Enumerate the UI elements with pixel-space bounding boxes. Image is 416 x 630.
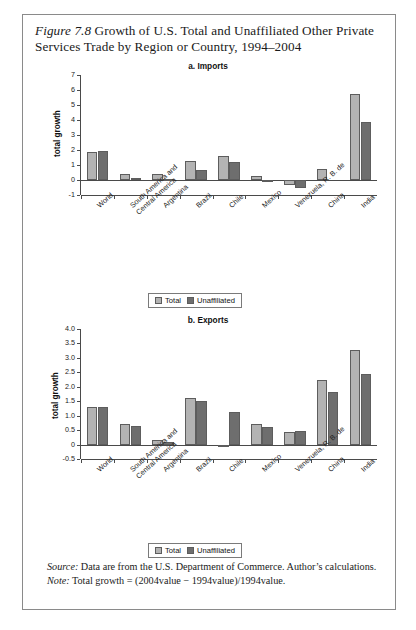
bar-total — [350, 350, 361, 444]
x-tick — [81, 460, 82, 463]
legend-item-unaffiliated: Unaffiliated — [187, 296, 235, 305]
y-tick — [77, 445, 80, 446]
bar-total — [185, 161, 196, 180]
y-tick — [77, 343, 80, 344]
y-tick-label: 4.0 — [47, 324, 75, 333]
x-tick — [245, 460, 246, 463]
bar-unaffiliated — [98, 407, 109, 445]
figure-number: Figure 7.8 — [35, 23, 91, 38]
y-tick — [77, 195, 80, 196]
bar-unaffiliated — [196, 401, 207, 445]
bar-total — [120, 174, 131, 180]
note-label: Note: — [47, 575, 70, 586]
y-tick-label: 7 — [47, 70, 75, 79]
x-tick — [81, 196, 82, 199]
bar-unaffiliated — [131, 178, 142, 180]
bar-total — [284, 180, 295, 185]
y-tick-label: -1 — [47, 190, 75, 199]
y-tick — [77, 180, 80, 181]
y-tick — [77, 430, 80, 431]
bar-total — [284, 432, 295, 445]
bar-unaffiliated — [361, 374, 372, 444]
bar-unaffiliated — [295, 180, 306, 188]
legend-swatch-total — [155, 297, 162, 304]
source-text: Data are from the U.S. Department of Com… — [78, 561, 376, 572]
x-tick — [245, 196, 246, 199]
chart-imports-title: a. Imports — [23, 61, 393, 71]
y-tick-label: 4 — [47, 115, 75, 124]
bar-total — [218, 156, 229, 180]
bar-unaffiliated — [262, 427, 273, 445]
y-tick-label: 1.5 — [47, 396, 75, 405]
bar-unaffiliated — [295, 431, 306, 445]
bar-total — [218, 445, 229, 447]
bar-unaffiliated — [229, 412, 240, 444]
y-tick — [77, 387, 80, 388]
method-note: Note: Total growth = (2004value − 1994va… — [37, 575, 385, 588]
y-tick — [77, 150, 80, 151]
y-tick-label: 1.0 — [47, 411, 75, 420]
legend-label-total: Total — [165, 546, 181, 555]
y-tick-label: 2.5 — [47, 367, 75, 376]
y-tick — [77, 416, 80, 417]
zero-baseline — [81, 180, 377, 181]
figure-page: Figure 7.8 Growth of U.S. Total and Unaf… — [0, 0, 416, 630]
y-tick — [77, 90, 80, 91]
chart-exports: b. Exports total growth -0.500.51.01.52.… — [23, 315, 393, 565]
legend-item-unaffiliated: Unaffiliated — [187, 546, 235, 555]
legend-label-total: Total — [165, 296, 181, 305]
y-tick-label: -0.5 — [47, 454, 75, 463]
y-axis-line — [80, 329, 81, 459]
y-tick — [77, 135, 80, 136]
y-axis-line — [80, 75, 81, 195]
y-tick-label: 2 — [47, 145, 75, 154]
y-tick-label: 5 — [47, 100, 75, 109]
source-label: Source: — [47, 561, 78, 572]
bar-total — [251, 424, 262, 445]
legend-item-total: Total — [155, 546, 181, 555]
bar-unaffiliated — [131, 426, 142, 444]
zero-baseline — [81, 445, 377, 446]
y-tick-label: 3 — [47, 130, 75, 139]
bar-unaffiliated — [196, 170, 207, 181]
figure-notes: Source: Data are from the U.S. Departmen… — [37, 561, 385, 588]
y-tick — [77, 105, 80, 106]
note-text: Total growth = (2004value − 1994value)/1… — [70, 575, 286, 586]
bar-total — [251, 176, 262, 180]
legend-label-unaffiliated: Unaffiliated — [197, 546, 235, 555]
y-tick — [77, 329, 80, 330]
bar-unaffiliated — [229, 162, 240, 180]
y-tick-label: 1 — [47, 160, 75, 169]
bar-total — [87, 407, 98, 445]
bar-total — [87, 152, 98, 180]
y-tick — [77, 459, 80, 460]
y-tick-label: 6 — [47, 85, 75, 94]
y-tick-label: 0 — [47, 440, 75, 449]
legend-swatch-total — [155, 547, 162, 554]
y-tick-label: 3.5 — [47, 338, 75, 347]
y-tick — [77, 120, 80, 121]
bar-total — [185, 398, 196, 445]
y-tick — [77, 372, 80, 373]
y-tick — [77, 358, 80, 359]
y-tick — [77, 401, 80, 402]
chart-imports-legend: Total Unaffiliated — [148, 293, 242, 308]
bar-unaffiliated — [262, 180, 273, 182]
y-tick-label: 3.0 — [47, 353, 75, 362]
legend-item-total: Total — [155, 296, 181, 305]
legend-label-unaffiliated: Unaffiliated — [197, 296, 235, 305]
y-tick-label: 0 — [47, 175, 75, 184]
bar-total — [350, 94, 361, 180]
bar-unaffiliated — [98, 151, 109, 180]
y-tick — [77, 165, 80, 166]
chart-imports: a. Imports total growth -101234567 World… — [23, 61, 393, 316]
y-tick-label: 0.5 — [47, 425, 75, 434]
bar-unaffiliated — [361, 122, 372, 180]
chart-exports-legend: Total Unaffiliated — [148, 543, 242, 558]
chart-exports-title: b. Exports — [23, 315, 393, 325]
bar-total — [317, 380, 328, 445]
figure-frame: Figure 7.8 Growth of U.S. Total and Unaf… — [22, 14, 396, 610]
figure-title: Figure 7.8 Growth of U.S. Total and Unaf… — [35, 23, 383, 54]
bar-total — [120, 424, 131, 445]
source-note: Source: Data are from the U.S. Departmen… — [37, 561, 385, 574]
